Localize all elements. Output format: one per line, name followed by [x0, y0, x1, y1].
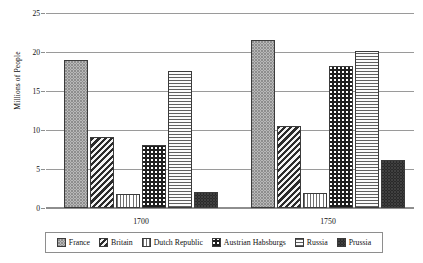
legend-swatch-icon: [142, 238, 151, 247]
y-tick-label: 20: [32, 48, 40, 57]
legend-label: Dutch Republic: [154, 239, 203, 247]
legend-label: France: [69, 239, 90, 247]
legend-swatch-icon: [295, 238, 304, 247]
legend-item-france[interactable]: France: [52, 238, 94, 247]
x-axis-label-1750: 1750: [251, 217, 405, 226]
y-tick-label: 10: [32, 126, 40, 135]
bar-prussia-1750: [381, 160, 405, 208]
bar-chart: Millions of People 051015202517001750 Fr…: [0, 0, 423, 263]
bar-france-1750: [251, 40, 275, 208]
legend-label: Austrian Habsburgs: [224, 239, 286, 247]
plot-area: 051015202517001750: [46, 13, 414, 208]
bar-prussia-1700: [194, 192, 218, 208]
legend-label: Prussia: [349, 239, 372, 247]
legend-swatch-icon: [99, 238, 108, 247]
y-tick-label: 25: [32, 9, 40, 18]
y-tick-mark: [41, 169, 45, 170]
y-tick-label: 15: [32, 87, 40, 96]
bar-austrian-habsburgs-1700: [142, 145, 166, 208]
legend-item-austrian-habsburgs[interactable]: Austrian Habsburgs: [207, 238, 290, 247]
bar-france-1700: [64, 60, 88, 208]
y-tick-mark: [41, 130, 45, 131]
legend-label: Russia: [307, 239, 328, 247]
legend-item-britain[interactable]: Britain: [95, 238, 138, 247]
legend-swatch-icon: [57, 238, 66, 247]
bar-group-1700: 1700: [64, 13, 218, 208]
bar-austrian-habsburgs-1750: [329, 66, 353, 208]
bar-russia-1700: [168, 71, 192, 208]
bar-britain-1700: [90, 137, 114, 208]
x-axis-label-1700: 1700: [64, 217, 218, 226]
bar-dutch-republic-1750: [303, 193, 327, 208]
legend-label: Britain: [111, 239, 133, 247]
bar-russia-1750: [355, 51, 379, 208]
y-tick-label: 0: [36, 204, 40, 213]
legend-item-prussia[interactable]: Prussia: [332, 238, 376, 247]
y-tick-mark: [41, 91, 45, 92]
y-tick-label: 5: [36, 165, 40, 174]
legend-item-russia[interactable]: Russia: [290, 238, 332, 247]
y-tick-mark: [41, 208, 45, 209]
bar-britain-1750: [277, 126, 301, 208]
chart-legend: FranceBritainDutch RepublicAustrian Habs…: [45, 232, 383, 253]
legend-swatch-icon: [337, 238, 346, 247]
bar-group-1750: 1750: [251, 13, 405, 208]
y-tick-mark: [41, 13, 45, 14]
y-tick-mark: [41, 52, 45, 53]
y-axis-title: Millions of People: [13, 21, 22, 141]
legend-item-dutch-republic[interactable]: Dutch Republic: [137, 238, 207, 247]
legend-swatch-icon: [212, 238, 221, 247]
bar-dutch-republic-1700: [116, 194, 140, 208]
